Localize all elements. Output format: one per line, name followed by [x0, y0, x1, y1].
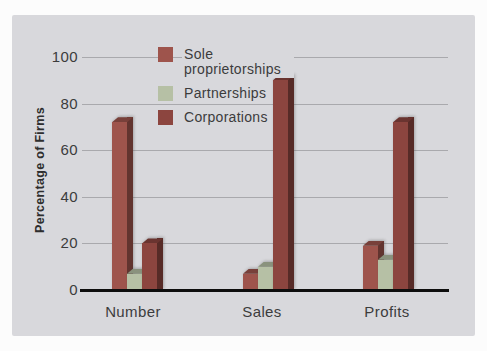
- bar-side-face: [127, 117, 133, 290]
- x-axis-label-profits: Profits: [342, 303, 432, 320]
- x-axis-line: [80, 289, 449, 292]
- bar-front-face: [112, 122, 127, 290]
- legend-item-partnerships: Partnerships: [158, 85, 294, 102]
- bar-side-face: [408, 117, 414, 290]
- y-tick-label: 0: [30, 281, 78, 298]
- bar-front-face: [393, 122, 408, 290]
- x-axis-label-number: Number: [88, 303, 178, 320]
- y-tick-label: 40: [30, 188, 78, 205]
- chart-panel: Percentage of Firms 020406080100NumberSa…: [12, 15, 475, 336]
- bar-front-face: [378, 260, 393, 290]
- legend-label: Corporations: [182, 109, 270, 126]
- legend-swatch: [158, 86, 173, 101]
- x-axis-label-sales: Sales: [217, 303, 307, 320]
- legend-label: Partnerships: [182, 85, 268, 102]
- bar-front-face: [363, 246, 378, 290]
- legend-label: Sole proprietorships: [182, 46, 294, 78]
- y-tick-label: 100: [30, 48, 78, 65]
- legend-item-corporations: Corporations: [158, 109, 294, 126]
- legend-swatch: [158, 47, 173, 62]
- y-tick-label: 20: [30, 234, 78, 251]
- bar-front-face: [142, 243, 157, 290]
- bar-side-face: [157, 238, 163, 290]
- legend: Sole proprietorshipsPartnershipsCorporat…: [158, 46, 294, 133]
- legend-item-sole-proprietorships: Sole proprietorships: [158, 46, 294, 78]
- page: Percentage of Firms 020406080100NumberSa…: [0, 0, 487, 351]
- bar-number-corporations: [142, 238, 163, 290]
- bar-front-face: [258, 267, 273, 290]
- y-tick-label: 60: [30, 141, 78, 158]
- legend-swatch: [158, 110, 173, 125]
- bar-number-sole-proprietorships: [112, 117, 133, 290]
- bar-profits-corporations: [393, 117, 414, 290]
- y-tick-label: 80: [30, 95, 78, 112]
